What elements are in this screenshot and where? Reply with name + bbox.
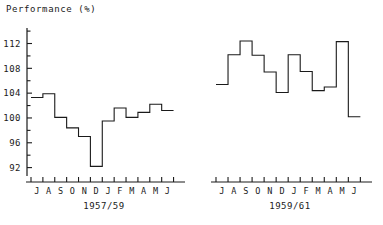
x-tick-label: J bbox=[34, 186, 40, 196]
panel-caption: 1959/61 bbox=[269, 201, 310, 211]
y-tick-label: 104 bbox=[3, 88, 21, 98]
x-tick-label: N bbox=[267, 186, 273, 196]
x-tick-label: A bbox=[231, 186, 237, 196]
y-tick-label: 112 bbox=[3, 39, 21, 49]
x-tick-label: J bbox=[219, 186, 225, 196]
panel-left: 9296100104108112JASONDJFMAMJ1957/59 bbox=[3, 28, 185, 211]
x-tick-label: A bbox=[328, 186, 334, 196]
x-tick-label: O bbox=[255, 186, 261, 196]
x-tick-label: J bbox=[291, 186, 297, 196]
x-tick-label: M bbox=[129, 186, 135, 196]
x-tick-label: M bbox=[315, 186, 321, 196]
x-tick-label: M bbox=[153, 186, 159, 196]
y-tick-label: 92 bbox=[9, 163, 21, 173]
x-tick-label: S bbox=[243, 186, 249, 196]
x-tick-label: J bbox=[165, 186, 171, 196]
x-tick-label: A bbox=[141, 186, 147, 196]
y-tick-label: 100 bbox=[3, 113, 21, 123]
x-tick-label: F bbox=[303, 186, 309, 196]
data-step-line bbox=[31, 94, 174, 167]
x-tick-label: N bbox=[82, 186, 88, 196]
x-tick-label: D bbox=[94, 186, 100, 196]
x-tick-label: F bbox=[117, 186, 123, 196]
x-tick-label: M bbox=[340, 186, 346, 196]
panel-right: JASONDJFMAMJ1959/61 bbox=[211, 41, 372, 211]
x-tick-label: A bbox=[46, 186, 52, 196]
x-tick-label: J bbox=[105, 186, 111, 196]
data-step-line bbox=[216, 41, 360, 117]
x-tick-label: J bbox=[352, 186, 358, 196]
x-tick-label: O bbox=[70, 186, 76, 196]
panel-caption: 1957/59 bbox=[83, 201, 124, 211]
y-tick-label: 96 bbox=[9, 138, 21, 148]
x-tick-label: D bbox=[279, 186, 285, 196]
chart-canvas: 9296100104108112JASONDJFMAMJ1957/59 JASO… bbox=[0, 0, 383, 225]
x-tick-label: S bbox=[58, 186, 64, 196]
chart-figure: Performance (%) 9296100104108112JASONDJF… bbox=[0, 0, 383, 225]
y-tick-label: 108 bbox=[3, 64, 21, 74]
